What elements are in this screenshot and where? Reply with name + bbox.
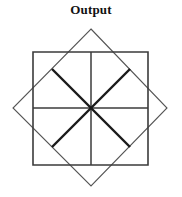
ray-up-left bbox=[52, 69, 91, 108]
pinwheel-rays bbox=[33, 52, 148, 165]
ray-up-right bbox=[91, 69, 130, 108]
ray-down-right bbox=[91, 108, 130, 147]
geometry-figure bbox=[0, 0, 182, 197]
ray-down-left bbox=[52, 108, 91, 147]
figure-panel: Output bbox=[0, 0, 182, 197]
